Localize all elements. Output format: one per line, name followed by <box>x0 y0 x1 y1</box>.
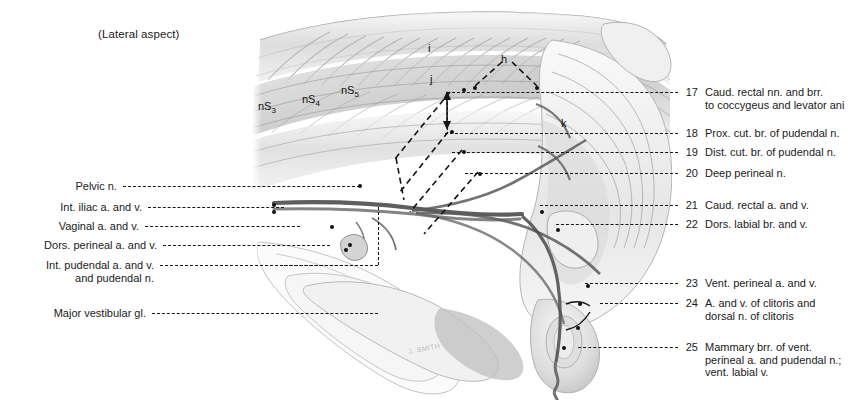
label-text-20: Deep perineal n. <box>705 167 786 180</box>
annotation-nS5: nS5 <box>341 84 359 99</box>
leader-bracket-left-vertical <box>378 207 379 265</box>
leader-line-23 <box>585 283 678 284</box>
label-text-22: Dors. labial br. and v. <box>705 218 808 231</box>
leader-clitoris-hooks <box>562 296 602 338</box>
label-number-19: 19 <box>681 146 698 159</box>
anchor-dot-dors-perineal <box>348 243 352 247</box>
label-number-22: 22 <box>681 218 698 231</box>
label-number-24: 24 <box>681 297 698 310</box>
label-7: 7Vaginal a. and v. <box>0 220 139 233</box>
label-text-17-line2: to coccygeus and levator ani <box>705 99 844 112</box>
label-text-7: Vaginal a. and v. <box>0 220 139 233</box>
label-18: 18Prox. cut. br. of pudendal n. <box>705 127 840 140</box>
label-number-23: 23 <box>681 277 698 290</box>
anchor-dot-mammary-brr <box>562 346 566 350</box>
anchor-dot-int-iliac-v <box>272 210 276 214</box>
label-text-25-line2: perineal a. and pudendal n.; <box>705 354 841 367</box>
leader-bracket-left-bottom <box>284 265 378 266</box>
label-23: 23Vent. perineal a. and v. <box>705 277 817 290</box>
anchor-dot-vaginal <box>330 225 334 229</box>
annotation-j: j <box>430 73 432 85</box>
label-10: 10Major vestibular gl. <box>0 307 146 320</box>
label-text-24-line2: dorsal n. of clitoris <box>705 310 815 323</box>
leader-line-7 <box>145 226 300 227</box>
label-text-18: Prox. cut. br. of pudendal n. <box>705 127 840 140</box>
label-number-20: 20 <box>681 167 698 180</box>
label-text-9-line2: and pudendal n. <box>0 272 154 285</box>
label-text-19: Dist. cut. br. of pudendal n. <box>705 146 836 159</box>
label-22: 22Dors. labial br. and v. <box>705 218 808 231</box>
anchor-dot-dors-labial-br <box>556 228 560 232</box>
annotation-i: i <box>428 42 430 54</box>
anchor-dot-int-iliac-a <box>272 203 276 207</box>
aspect-note: (Lateral aspect) <box>98 28 180 40</box>
leader-line-6 <box>148 207 284 208</box>
label-9: 9Int. pudendal a. and v.and pudendal n. <box>0 259 154 284</box>
leader-line-10 <box>152 313 378 314</box>
anchor-dot-vent-perineal <box>586 284 590 288</box>
label-number-17: 17 <box>681 86 698 99</box>
anchor-dot-vestibular-gl <box>344 248 348 252</box>
label-number-18: 18 <box>681 127 698 140</box>
label-text-8: Dors. perineal a. and v. <box>0 239 157 252</box>
label-text-9: Int. pudendal a. and v. <box>0 259 154 272</box>
annotation-subscript: 4 <box>315 99 319 108</box>
leader-line-24 <box>600 303 678 304</box>
anatomy-plate: J. SMITH nS3nS4nS5ihjk (Lateral aspect) <box>0 0 866 408</box>
label-19: 19Dist. cut. br. of pudendal n. <box>705 146 836 159</box>
label-text-21: Caud. rectal a. and v. <box>705 199 809 212</box>
label-25: 25Mammary brr. of vent.perineal a. and p… <box>705 341 841 379</box>
annotation-nS3: nS3 <box>258 100 276 115</box>
label-text-10: Major vestibular gl. <box>0 307 146 320</box>
label-21: 21Caud. rectal a. and v. <box>705 199 809 212</box>
label-17: 17Caud. rectal nn. and brr.to coccygeus … <box>705 86 844 111</box>
label-24: 24A. and v. of clitoris anddorsal n. of … <box>705 297 815 322</box>
annotation-subscript: 5 <box>354 90 358 99</box>
label-6: 6Int. iliac a. and v. <box>0 201 142 214</box>
annotation-k: k <box>561 117 567 129</box>
label-text-25-line3: vent. labial v. <box>705 366 841 379</box>
leader-line-pelvic-n <box>123 186 360 187</box>
leader-arrow-bracket <box>438 88 466 134</box>
anchor-dot-pelvic-n <box>358 184 362 188</box>
anchor-dot-caud-rectal-a <box>540 210 544 214</box>
annotation-subscript: 3 <box>271 106 275 115</box>
label-8: 8Dors. perineal a. and v. <box>0 239 157 252</box>
leader-line-25 <box>578 347 678 348</box>
label-text-pelvic-n: Pelvic n. <box>0 180 117 193</box>
label-text-23: Vent. perineal a. and v. <box>705 277 817 290</box>
leader-line-22 <box>556 224 678 225</box>
leader-line-8 <box>163 245 330 246</box>
leader-line-21 <box>540 205 678 206</box>
label-20: 20Deep perineal n. <box>705 167 786 180</box>
annotation-nS4: nS4 <box>302 93 320 108</box>
label-number-21: 21 <box>681 199 698 212</box>
label-pelvic-n: Pelvic n. <box>0 180 117 193</box>
label-text-25: Mammary brr. of vent. <box>705 341 841 354</box>
label-text-24: A. and v. of clitoris and <box>705 297 815 310</box>
label-text-6: Int. iliac a. and v. <box>0 201 142 214</box>
label-number-25: 25 <box>681 341 698 354</box>
label-text-17: Caud. rectal nn. and brr. <box>705 86 844 99</box>
